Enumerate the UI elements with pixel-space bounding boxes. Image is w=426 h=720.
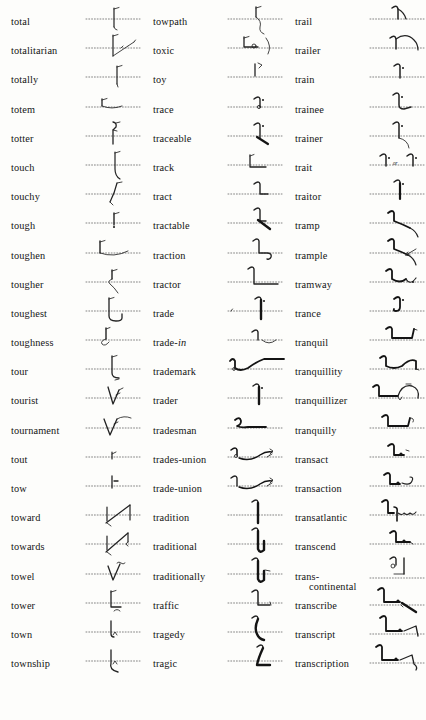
entry-word: toward	[0, 502, 84, 524]
entry-word: transact	[284, 444, 368, 466]
entry-word: tract	[142, 181, 226, 203]
entry-word: trample	[284, 240, 368, 262]
entry-word: tractable	[142, 210, 226, 232]
entry-word: tout	[0, 444, 84, 466]
entry-word: trade-in	[142, 327, 226, 349]
entry-word: towards	[0, 531, 84, 553]
entry-word: tougher	[0, 269, 84, 291]
entry-word: tradesman	[142, 415, 226, 437]
entry-word: trade-union	[142, 473, 226, 495]
entry-word: tourist	[0, 385, 84, 407]
entry-word: transcription	[284, 648, 368, 670]
entry-word: tow	[0, 473, 84, 495]
entry-word: total	[0, 6, 84, 28]
entry-word: trademark	[142, 356, 226, 378]
entry-word: tower	[0, 590, 84, 612]
entry-word: totem	[0, 94, 84, 116]
entry-word: tramway	[284, 269, 368, 291]
entry-word: train	[284, 64, 368, 86]
entry-word: tramp	[284, 210, 368, 232]
entry-word: trailer	[284, 35, 368, 57]
entry-word: trainee	[284, 94, 368, 116]
entry-word: touch	[0, 152, 84, 174]
entry-word: tough	[0, 210, 84, 232]
entry-word: totally	[0, 64, 84, 86]
entry-word: tragic	[142, 648, 226, 670]
columns-container: total totalitarian totally totem	[0, 0, 426, 720]
dictionary-column-1: total totalitarian totally totem	[0, 6, 142, 720]
entry-word: transcribe	[284, 590, 368, 612]
entry-word: tranquillizer	[284, 385, 368, 407]
entry-word: tranquilly	[284, 415, 368, 437]
entry-word: transaction	[284, 473, 368, 495]
dictionary-page: total totalitarian totally totem	[0, 0, 426, 720]
dictionary-entry: transcription	[284, 648, 426, 677]
entry-word: trail	[284, 6, 368, 28]
entry-word: tranquillity	[284, 356, 368, 378]
entry-word: trait	[284, 152, 368, 174]
entry-word: tranquil	[284, 327, 368, 349]
entry-word: township	[0, 648, 84, 670]
entry-word: traditional	[142, 531, 226, 553]
entry-word: totter	[0, 123, 84, 145]
shorthand-outline-tragic	[226, 648, 284, 677]
entry-word: trader	[142, 385, 226, 407]
entry-word: traffic	[142, 590, 226, 612]
shorthand-outline-township	[84, 648, 142, 677]
dictionary-column-3: trail trailer train trainee	[284, 6, 426, 720]
entry-word: tradition	[142, 502, 226, 524]
entry-word: traditionally	[142, 561, 226, 583]
entry-word: trans-continental	[284, 561, 368, 593]
entry-word: transatlantic	[284, 502, 368, 524]
dictionary-entry: township	[0, 648, 142, 677]
entry-word: trainer	[284, 123, 368, 145]
entry-word: track	[142, 152, 226, 174]
entry-word: trades-union	[142, 444, 226, 466]
dictionary-entry: tragic	[142, 648, 284, 677]
entry-word: trace	[142, 94, 226, 116]
entry-word: traction	[142, 240, 226, 262]
shorthand-outline-transcription	[368, 648, 426, 677]
entry-word: traceable	[142, 123, 226, 145]
entry-word: towel	[0, 561, 84, 583]
entry-word-line1: trans-	[295, 571, 319, 582]
entry-word: toughness	[0, 327, 84, 349]
entry-word: toy	[142, 64, 226, 86]
entry-word: towpath	[142, 6, 226, 28]
entry-word: transcend	[284, 531, 368, 553]
entry-word: tournament	[0, 415, 84, 437]
entry-word: trance	[284, 298, 368, 320]
entry-word: tragedy	[142, 619, 226, 641]
dictionary-column-2: towpath toxic toy trace	[142, 6, 284, 720]
entry-word: trade	[142, 298, 226, 320]
entry-word: tractor	[142, 269, 226, 291]
entry-word: toughen	[0, 240, 84, 262]
entry-word: traitor	[284, 181, 368, 203]
entry-word: totalitarian	[0, 35, 84, 57]
entry-word: town	[0, 619, 84, 641]
entry-word: toxic	[142, 35, 226, 57]
entry-word: transcript	[284, 619, 368, 641]
entry-word: tour	[0, 356, 84, 378]
entry-word: toughest	[0, 298, 84, 320]
entry-word: touchy	[0, 181, 84, 203]
